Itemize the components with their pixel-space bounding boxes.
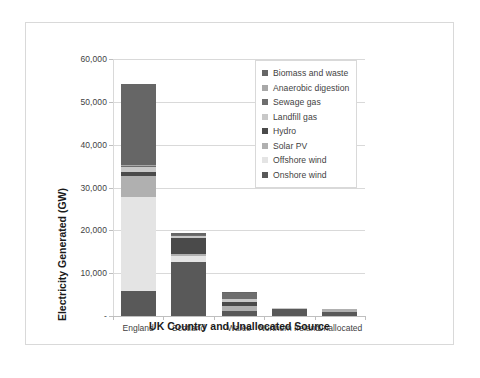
legend-swatch-icon xyxy=(262,114,268,120)
bar-segment[interactable] xyxy=(121,291,156,316)
y-tick-label: 20,000 xyxy=(80,225,107,235)
legend-item[interactable]: Offshore wind xyxy=(262,153,349,168)
y-tick-label: 40,000 xyxy=(80,140,107,150)
bar-segment[interactable] xyxy=(272,309,307,316)
y-tick-label: 10,000 xyxy=(80,268,107,278)
bar-northern-ireland[interactable] xyxy=(272,308,307,316)
bar-wales[interactable] xyxy=(222,292,257,316)
legend-label: Solar PV xyxy=(273,141,307,151)
bar-segment[interactable] xyxy=(121,84,156,166)
legend-swatch-icon xyxy=(262,70,268,76)
legend-label: Sewage gas xyxy=(273,97,321,107)
legend-item[interactable]: Landfill gas xyxy=(262,110,349,125)
y-tick-label: 50,000 xyxy=(80,97,107,107)
y-axis-label-container: Electricity Generated (GW) xyxy=(66,59,67,316)
y-tick-mark xyxy=(109,145,113,146)
legend-label: Biomass and waste xyxy=(273,68,348,78)
legend-label: Anaerobic digestion xyxy=(273,83,349,93)
legend-swatch-icon xyxy=(262,128,268,134)
legend-swatch-icon xyxy=(262,85,268,91)
legend-swatch-icon xyxy=(262,157,268,163)
y-tick-mark xyxy=(109,59,113,60)
chart-legend: Biomass and wasteAnaerobic digestionSewa… xyxy=(255,60,357,188)
bar-segment[interactable] xyxy=(121,197,156,291)
y-tick-mark xyxy=(109,230,113,231)
bar-segment[interactable] xyxy=(222,311,257,316)
legend-label: Hydro xyxy=(273,126,296,136)
x-axis-line xyxy=(113,316,365,317)
y-tick-label: 30,000 xyxy=(80,183,107,193)
bar-segment[interactable] xyxy=(322,312,357,316)
bar-segment[interactable] xyxy=(121,176,156,197)
legend-item[interactable]: Onshore wind xyxy=(262,168,349,183)
bar-england[interactable] xyxy=(121,84,156,317)
legend-swatch-icon xyxy=(262,172,268,178)
bar-segment[interactable] xyxy=(171,238,206,255)
y-tick-mark xyxy=(109,102,113,103)
legend-item[interactable]: Sewage gas xyxy=(262,95,349,110)
x-axis-label: UK Country and Unallocated Source xyxy=(26,320,453,332)
legend-item[interactable]: Solar PV xyxy=(262,139,349,154)
legend-item[interactable]: Biomass and waste xyxy=(262,66,349,81)
bar-unallocated[interactable] xyxy=(322,309,357,316)
y-axis-label: Electricity Generated (GW) xyxy=(56,188,68,321)
legend-item[interactable]: Hydro xyxy=(262,124,349,139)
legend-label: Landfill gas xyxy=(273,112,317,122)
chart-frame: Electricity Generated (GW) -10,00020,000… xyxy=(25,22,454,345)
legend-label: Offshore wind xyxy=(273,155,327,165)
y-tick-mark xyxy=(109,188,113,189)
legend-item[interactable]: Anaerobic digestion xyxy=(262,81,349,96)
y-tick-label: 60,000 xyxy=(80,54,107,64)
bar-scotland[interactable] xyxy=(171,233,206,316)
bar-segment[interactable] xyxy=(171,262,206,316)
legend-swatch-icon xyxy=(262,143,268,149)
y-tick-mark xyxy=(109,273,113,274)
legend-swatch-icon xyxy=(262,99,268,105)
legend-label: Onshore wind xyxy=(273,170,327,180)
